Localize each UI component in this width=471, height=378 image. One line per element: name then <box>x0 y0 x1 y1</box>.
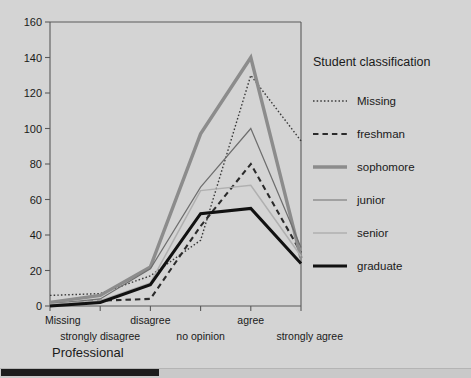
series-lines <box>50 58 301 307</box>
legend-label: Missing <box>357 95 396 107</box>
legend-label: junior <box>356 194 385 206</box>
y-tick-label: 0 <box>36 300 42 312</box>
legend-label: graduate <box>357 260 402 272</box>
x-tick-label: agree <box>237 314 264 326</box>
x-tick-label: Missing <box>45 314 81 326</box>
y-tick-label: 60 <box>30 194 42 206</box>
x-axis-title: Professional <box>52 345 124 360</box>
x-axis: Missingstrongly disagreedisagreeno opini… <box>45 306 343 342</box>
x-tick-label: strongly agree <box>276 330 343 342</box>
horizontal-scrollbar-thumb[interactable] <box>1 369 159 376</box>
legend-label: freshman <box>357 128 405 140</box>
legend-entry-graduate[interactable]: graduate <box>313 260 402 272</box>
legend-entry-freshman[interactable]: freshman <box>313 128 405 140</box>
legend-entry-missing[interactable]: Missing <box>313 95 396 107</box>
y-tick-label: 20 <box>30 265 42 277</box>
legend-title: Student classification <box>313 55 430 69</box>
y-tick-label: 80 <box>30 158 42 170</box>
x-tick-label: disagree <box>130 314 170 326</box>
x-tick-label: no opinion <box>176 330 225 342</box>
series-line-sophomore <box>50 58 301 303</box>
y-tick-label: 160 <box>24 16 42 28</box>
x-tick-label: strongly disagree <box>60 330 140 342</box>
legend-entry-sophomore[interactable]: sophomore <box>313 161 415 173</box>
legend-entry-junior[interactable]: junior <box>313 194 385 206</box>
series-line-junior <box>50 129 301 305</box>
legend-label: sophomore <box>357 161 415 173</box>
legend-entry-senior[interactable]: senior <box>313 227 388 239</box>
series-line-freshman <box>50 164 301 304</box>
chart-legend: Student classificationMissingfreshmansop… <box>313 55 430 272</box>
legend-label: senior <box>357 227 388 239</box>
y-tick-label: 120 <box>24 87 42 99</box>
y-tick-label: 140 <box>24 52 42 64</box>
y-tick-label: 40 <box>30 229 42 241</box>
y-tick-label: 100 <box>24 123 42 135</box>
